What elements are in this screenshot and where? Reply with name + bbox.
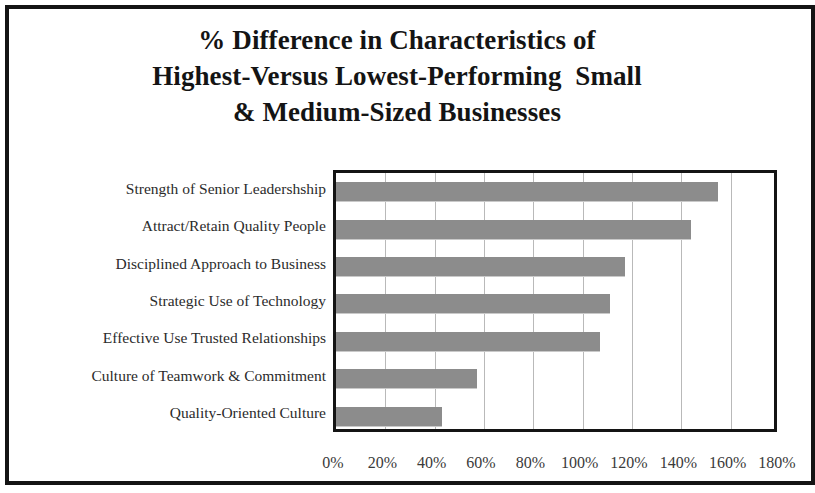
plot-area [333, 170, 777, 432]
bar [336, 407, 442, 426]
category-label: Disciplined Approach to Business [30, 255, 326, 273]
bar [336, 220, 691, 239]
category-label: Strategic Use of Technology [30, 292, 326, 310]
bar [336, 332, 600, 351]
bar-row [336, 173, 718, 210]
bar [336, 182, 718, 201]
x-tick-label: 0% [322, 452, 343, 474]
bar [336, 257, 625, 276]
x-tick-label: 160% [709, 452, 746, 474]
bar-row [336, 398, 442, 435]
x-tick-label: 140% [660, 452, 697, 474]
category-label: Attract/Retain Quality People [30, 217, 326, 235]
x-axis-tick-labels: 0%20%40%60%80%100%120%140%160%180% [0, 452, 813, 478]
bars-layer [336, 173, 774, 429]
bar [336, 294, 610, 313]
category-axis-labels: Strength of Senior LeadershshipAttract/R… [30, 170, 326, 432]
category-label: Strength of Senior Leadershship [30, 180, 326, 198]
x-tick-label: 60% [466, 452, 495, 474]
category-label: Quality-Oriented Culture [30, 404, 326, 422]
bar [336, 369, 477, 388]
x-tick-label: 180% [758, 452, 795, 474]
category-label: Culture of Teamwork & Commitment [30, 367, 326, 385]
category-label: Effective Use Trusted Relationships [30, 329, 326, 347]
bar-row [336, 248, 625, 285]
x-tick-label: 120% [610, 452, 647, 474]
bar-row [336, 210, 691, 247]
x-tick-label: 100% [561, 452, 598, 474]
bar-row [336, 323, 600, 360]
x-tick-label: 40% [417, 452, 446, 474]
x-tick-label: 20% [368, 452, 397, 474]
x-tick-label: 80% [516, 452, 545, 474]
bar-row [336, 360, 477, 397]
bar-row [336, 285, 610, 322]
